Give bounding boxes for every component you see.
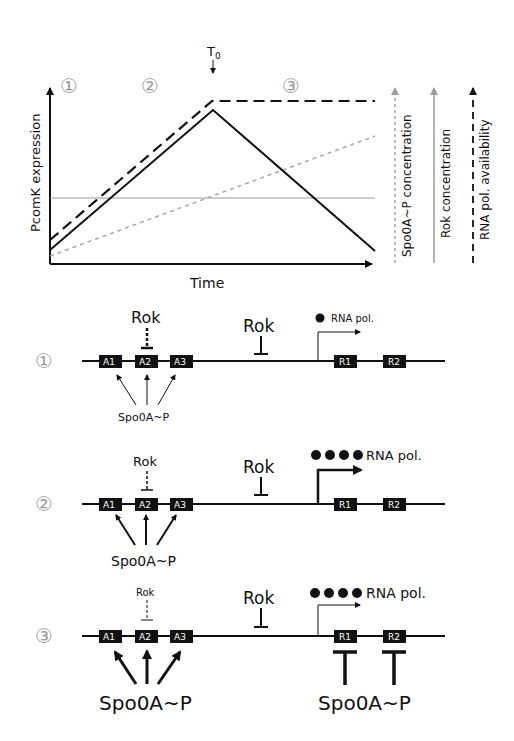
activation-arrow [115, 652, 136, 684]
legend-spo0a-label: Spo0A~P concentration [400, 114, 414, 257]
rok-mid-label: Rok [243, 588, 274, 608]
rnapol-label: RNA pol. [331, 313, 374, 324]
site-r2-label: R2 [388, 632, 400, 642]
rnapol-icon [311, 450, 321, 460]
rok-upstream-label: Rok [131, 308, 161, 327]
rnapol-label: RNA pol. [366, 448, 422, 463]
spo0a-label-right: Spo0A~P [318, 691, 411, 715]
site-a3-label: A3 [174, 357, 186, 367]
row-2: ② A1 A2 A3 R1 R2 Rok Rok RNA pol. Spo0A~… [35, 448, 445, 569]
site-r1-label: R1 [339, 632, 351, 642]
row-number: ① [35, 349, 53, 373]
rok-mid-label: Rok [243, 316, 274, 336]
rok-upstream-label: Rok [133, 454, 157, 469]
spo0a-label-left: Spo0A~P [99, 691, 192, 715]
t0-label: T0 [206, 44, 221, 61]
rnapol-group [310, 588, 362, 598]
site-a3-label: A3 [174, 632, 186, 642]
row-3: ③ A1 A2 A3 R1 R2 Rok Rok RNA pol. Spo0A~… [35, 585, 445, 715]
pcomk-expression-line [50, 110, 375, 251]
site-a3-label: A3 [174, 500, 186, 510]
activation-arrow [117, 375, 136, 405]
site-a2-label: A2 [139, 500, 151, 510]
site-r2-label: R2 [388, 357, 400, 367]
site-r2-label: R2 [388, 500, 400, 510]
phase-2-label: ② [141, 74, 159, 98]
site-a1-label: A1 [103, 357, 115, 367]
site-r1-label: R1 [339, 357, 351, 367]
site-r1-label: R1 [339, 500, 351, 510]
graph: T0 ① ② ③ PcomK expression Time Spo0A~P c… [28, 44, 492, 291]
site-a1-label: A1 [103, 632, 115, 642]
site-a1-label: A1 [103, 500, 115, 510]
y-axis-label: PcomK expression [28, 114, 43, 232]
rnapol-icon [325, 450, 335, 460]
activation-arrow [116, 515, 135, 545]
activation-arrow [158, 375, 175, 405]
rnapol-icon [310, 588, 320, 598]
activation-arrow [158, 652, 180, 684]
x-axis-label: Time [189, 275, 224, 291]
row-number: ② [35, 492, 53, 516]
figure: T0 ① ② ③ PcomK expression Time Spo0A~P c… [0, 0, 514, 741]
site-a2-label: A2 [139, 357, 151, 367]
spo0a-concentration-line [50, 136, 375, 256]
spo0a-label: Spo0A~P [118, 411, 169, 424]
rnapol-label: RNA pol. [366, 585, 426, 601]
rnapol-icon [353, 450, 363, 460]
row-1: ① A1 A2 A3 R1 R2 Rok Rok RNA pol. Spo0A~… [35, 308, 445, 424]
site-a2-label: A2 [139, 632, 151, 642]
legend-rok-label: Rok concentration [439, 129, 453, 238]
spo0a-label: Spo0A~P [111, 553, 176, 569]
legend: Spo0A~P concentration Rok concentration … [395, 88, 492, 263]
rnapol-group [311, 450, 363, 460]
rnapol-icon [339, 450, 349, 460]
phase-1-label: ① [60, 74, 78, 98]
phase-3-label: ③ [282, 74, 300, 98]
rnapol-icon [352, 588, 362, 598]
row-number: ③ [35, 624, 53, 648]
activation-arrow [157, 515, 176, 545]
rnapol-icon [338, 588, 348, 598]
rnapol-icon [316, 314, 325, 323]
rnapol-icon [324, 588, 334, 598]
rnapol-availability-line [50, 101, 375, 240]
legend-rnapol-label: RNA pol. availability [478, 119, 492, 240]
rok-mid-label: Rok [243, 457, 274, 477]
rok-upstream-label: Rok [136, 587, 155, 598]
